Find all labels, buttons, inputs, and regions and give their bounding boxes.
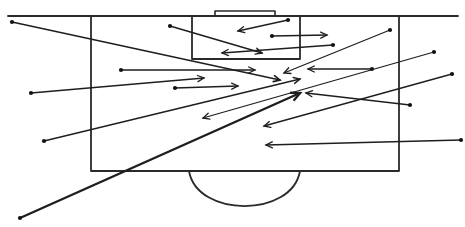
pass-origin-dot bbox=[450, 72, 454, 76]
pass-origin-dot bbox=[331, 43, 335, 47]
pitch-markings bbox=[8, 11, 458, 206]
pass-arrow bbox=[270, 32, 327, 38]
pass-origin-dot bbox=[388, 28, 392, 32]
pass-arrow bbox=[266, 138, 463, 148]
pass-origin-dot bbox=[42, 139, 46, 143]
pass-line bbox=[238, 20, 288, 31]
pass-line bbox=[20, 93, 300, 218]
pitch-diagram bbox=[0, 0, 465, 227]
pass-line bbox=[31, 78, 204, 93]
pass-origin-dot bbox=[29, 91, 33, 95]
pass-arrow bbox=[238, 18, 290, 33]
pass-line bbox=[264, 74, 452, 126]
pass-origin-dot bbox=[168, 24, 172, 28]
pass-arrow bbox=[173, 83, 238, 90]
pass-origin-dot bbox=[119, 68, 123, 72]
pass-arrow bbox=[222, 43, 335, 56]
pass-arrow bbox=[29, 76, 204, 96]
pass-arrow bbox=[18, 93, 300, 220]
pass-arrow bbox=[308, 66, 374, 72]
pass-origin-dot bbox=[286, 18, 290, 22]
penalty-box bbox=[91, 16, 399, 171]
pass-origin-dot bbox=[270, 34, 274, 38]
pass-arrow bbox=[306, 91, 412, 107]
pass-line bbox=[175, 86, 238, 88]
pass-origin-dot bbox=[408, 103, 412, 107]
pass-line bbox=[170, 26, 262, 53]
pass-origin-dot bbox=[432, 50, 436, 54]
pass-arrow bbox=[203, 50, 436, 119]
pass-line bbox=[266, 140, 461, 145]
pass-origin-dot bbox=[18, 216, 22, 220]
pass-line bbox=[272, 35, 327, 36]
pass-arrows bbox=[10, 18, 463, 220]
pass-line bbox=[306, 93, 410, 105]
pass-origin-dot bbox=[10, 20, 14, 24]
penalty-arc bbox=[189, 171, 300, 206]
pass-arrow bbox=[119, 67, 255, 73]
pass-origin-dot bbox=[173, 86, 177, 90]
pass-origin-dot bbox=[459, 138, 463, 142]
